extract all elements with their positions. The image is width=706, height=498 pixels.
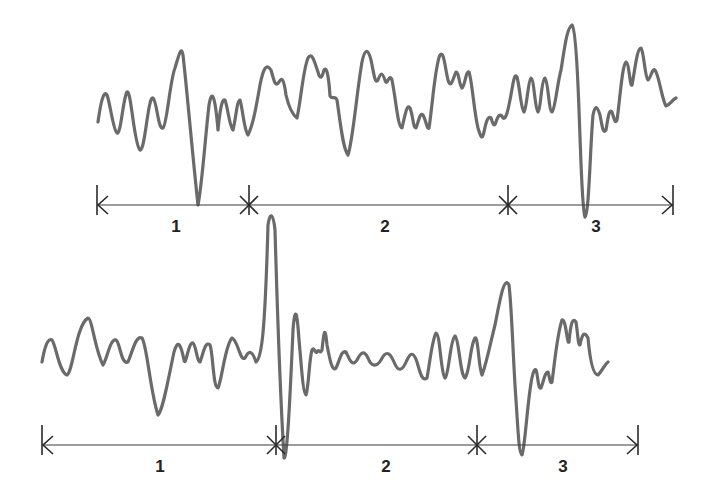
top-segment-3-label: 3 <box>591 217 600 237</box>
top-segment-1-label: 1 <box>171 217 180 237</box>
waveform-diagram <box>0 0 706 498</box>
bottom-segment-3-label: 3 <box>558 457 567 477</box>
bottom-segment-1-label: 1 <box>155 457 164 477</box>
bottom-waveform <box>42 216 608 458</box>
top-segment-2-label: 2 <box>380 217 389 237</box>
top-waveform <box>98 25 676 217</box>
bottom-segment-2-label: 2 <box>381 457 390 477</box>
